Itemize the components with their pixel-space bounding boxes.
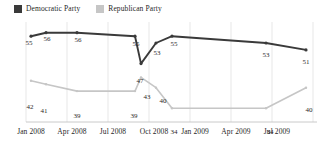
value-label-republican-2: 39 (73, 113, 80, 120)
legend-label-democratic: Democratic Party (26, 5, 80, 13)
legend-swatch-republican-icon (96, 5, 104, 13)
data-point[interactable] (29, 35, 32, 38)
legend-label-republican: Republican Party (108, 5, 161, 13)
value-label-democratic-3: 55 (132, 41, 139, 48)
x-tick-label-2: Jul 2008 (100, 126, 126, 137)
data-point[interactable] (139, 62, 142, 65)
x-tick-label-6: Jul 2009 (264, 126, 290, 137)
data-point[interactable] (171, 107, 173, 109)
legend-item-republican[interactable]: Republican Party (96, 5, 161, 13)
value-label-democratic-4: 47 (136, 78, 143, 85)
series-line-republican (31, 77, 306, 108)
data-point[interactable] (75, 31, 78, 34)
legend-swatch-democratic-icon (14, 5, 22, 13)
chart-svg (0, 14, 323, 124)
data-point[interactable] (30, 80, 32, 82)
data-point[interactable] (304, 48, 307, 51)
value-label-republican-1: 41 (40, 108, 47, 115)
legend-item-democratic[interactable]: Democratic Party (14, 5, 80, 13)
plot-area: 555656554753555351 424139394340343440 (0, 14, 323, 124)
value-label-democratic-0: 55 (25, 40, 32, 47)
data-point[interactable] (265, 107, 267, 109)
value-label-republican-3: 39 (130, 113, 137, 120)
series-line-democratic (31, 33, 306, 64)
value-label-democratic-2: 56 (74, 37, 81, 44)
value-label-republican-5: 40 (159, 98, 166, 105)
data-point[interactable] (133, 35, 136, 38)
x-tick-label-5: Apr 2009 (221, 126, 250, 137)
x-tick-label-1: Apr 2008 (57, 126, 86, 137)
data-point[interactable] (45, 83, 47, 85)
value-label-republican-8: 40 (305, 107, 312, 114)
data-point[interactable] (155, 87, 157, 89)
x-tick-label-3: Oct 2008 (140, 126, 169, 137)
data-point[interactable] (76, 90, 78, 92)
value-label-democratic-6: 55 (170, 41, 177, 48)
chart-container: Democratic Party Republican Party 555656… (0, 0, 323, 144)
value-label-democratic-1: 56 (43, 36, 50, 43)
x-axis-ticks: Jan 2008Apr 2008Jul 2008Oct 2008Jan 2009… (0, 126, 323, 140)
series-markers-democratic (29, 31, 307, 65)
data-point[interactable] (170, 35, 173, 38)
value-label-democratic-7: 53 (262, 52, 269, 59)
x-tick-label-4: Jan 2009 (181, 126, 209, 137)
value-label-republican-4: 43 (143, 94, 150, 101)
value-label-republican-0: 42 (26, 104, 33, 111)
data-point[interactable] (264, 41, 267, 44)
data-point[interactable] (305, 87, 307, 89)
x-tick-label-0: Jan 2008 (17, 126, 45, 137)
data-point[interactable] (154, 41, 157, 44)
data-point[interactable] (134, 90, 136, 92)
value-label-democratic-8: 51 (302, 59, 309, 66)
value-label-democratic-5: 53 (153, 50, 160, 57)
